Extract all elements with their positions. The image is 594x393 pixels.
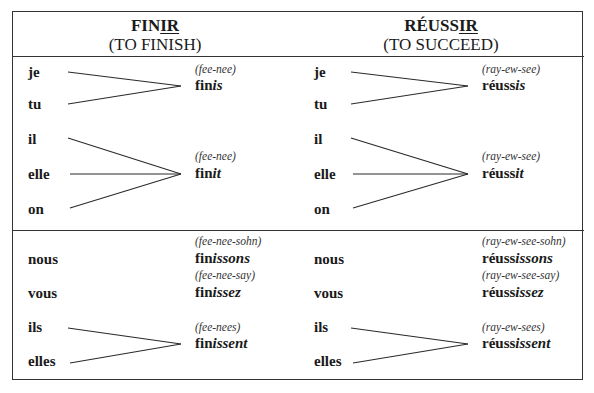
conjugated-form: finissent — [195, 335, 248, 352]
conjugated-form: finissez — [195, 284, 241, 301]
conjugated-form: finis — [195, 77, 223, 94]
pronoun-elles: elles — [314, 353, 342, 370]
pronunciation: (ray-ew-see) — [482, 150, 540, 162]
pronunciation: (ray-ew-see-say) — [482, 269, 559, 281]
pronunciation: (fee-nee-say) — [195, 269, 255, 281]
conjugated-form: réussissez — [482, 284, 544, 301]
pronoun-il: il — [314, 131, 322, 148]
pronunciation: (fee-nee) — [195, 63, 236, 75]
pronoun-elle: elle — [314, 166, 336, 183]
conjugated-form: réussit — [482, 165, 524, 182]
conjugated-form: réussissent — [482, 335, 550, 352]
pronoun-je: je — [314, 64, 326, 81]
pronunciation: (fee-nees) — [195, 321, 240, 333]
pronoun-on: on — [28, 201, 44, 218]
pronoun-on: on — [314, 201, 330, 218]
pronoun-tu: tu — [28, 96, 41, 113]
conjugated-form: finit — [195, 165, 221, 182]
pronoun-nous: nous — [314, 251, 344, 268]
pronunciation: (fee-nee) — [195, 150, 236, 162]
pronoun-nous: nous — [28, 251, 58, 268]
pronoun-vous: vous — [314, 285, 343, 302]
pronoun-je: je — [28, 64, 40, 81]
conjugated-form: réussis — [482, 77, 525, 94]
pronoun-ils: ils — [314, 319, 328, 336]
pronoun-tu: tu — [314, 96, 327, 113]
conjugated-form: finissons — [195, 250, 250, 267]
pronoun-vous: vous — [28, 285, 57, 302]
pronunciation: (ray-ew-see-sohn) — [482, 235, 566, 247]
pronoun-ils: ils — [28, 319, 42, 336]
pronoun-il: il — [28, 131, 36, 148]
conjugated-form: réussissons — [482, 250, 553, 267]
pronunciation: (ray-ew-sees) — [482, 321, 545, 333]
pronoun-elles: elles — [28, 353, 56, 370]
pronunciation: (fee-nee-sohn) — [195, 235, 261, 247]
pronoun-elle: elle — [28, 166, 50, 183]
pronunciation: (ray-ew-see) — [482, 63, 540, 75]
